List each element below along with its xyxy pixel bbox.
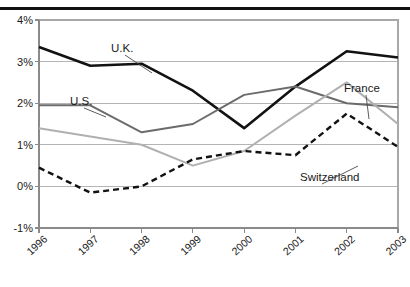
y-tick-label: 3% <box>17 56 33 68</box>
series-label-france: France <box>344 82 380 94</box>
y-tick-label: 2% <box>17 97 33 109</box>
x-tick-label: 2003 <box>383 232 409 257</box>
y-tick-label: 1% <box>17 139 33 151</box>
chart-canvas: 4%3%2%1%0%-1% 19961997199819992000200120… <box>0 0 410 287</box>
x-tick-label: 1996 <box>24 232 50 257</box>
y-tick-label: 4% <box>17 14 33 26</box>
y-tick-label: -1% <box>13 222 33 234</box>
x-tick-label: 1999 <box>178 232 204 257</box>
plot-background <box>39 20 398 228</box>
x-tick-label: 2002 <box>332 232 358 257</box>
x-tick-label: 2000 <box>229 232 255 257</box>
y-tick-label: 0% <box>17 180 33 192</box>
x-tick-label: 1998 <box>127 232 153 257</box>
x-tick-label: 1997 <box>75 232 101 257</box>
x-axis-tick-labels: 19961997199819992000200120022003 <box>24 232 409 257</box>
line-chart: 4%3%2%1%0%-1% 19961997199819992000200120… <box>0 0 410 287</box>
x-axis-tick-marks <box>39 228 398 233</box>
x-tick-label: 2001 <box>280 232 306 257</box>
series-label-uk: U.K. <box>111 42 133 54</box>
series-label-us: U.S. <box>70 95 92 107</box>
series-label-switzerland: Switzerland <box>300 171 359 183</box>
y-axis-tick-labels: 4%3%2%1%0%-1% <box>13 14 39 234</box>
